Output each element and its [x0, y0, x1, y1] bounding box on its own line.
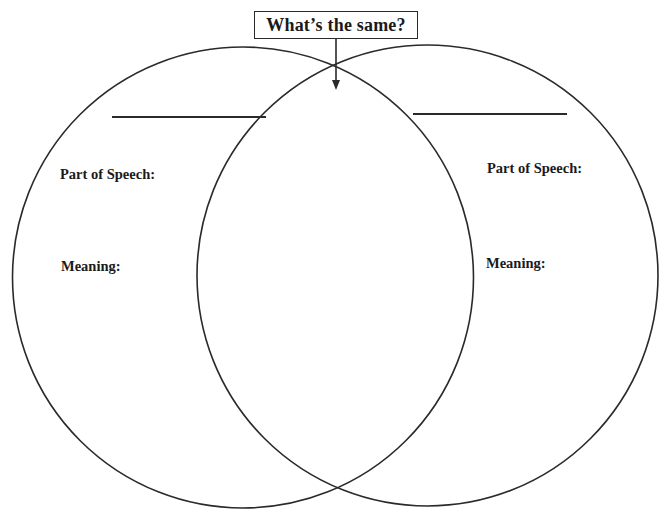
right-part-of-speech-label: Part of Speech:: [487, 160, 582, 177]
left-word-blank-line[interactable]: [112, 116, 266, 118]
left-part-of-speech-label: Part of Speech:: [60, 166, 155, 183]
left-meaning-label: Meaning:: [61, 258, 121, 275]
whats-the-same-box: What’s the same?: [254, 11, 418, 39]
whats-the-same-title: What’s the same?: [266, 15, 406, 36]
arrow-head-icon: [332, 80, 340, 90]
right-word-blank-line[interactable]: [413, 113, 567, 115]
right-meaning-label: Meaning:: [486, 255, 546, 272]
